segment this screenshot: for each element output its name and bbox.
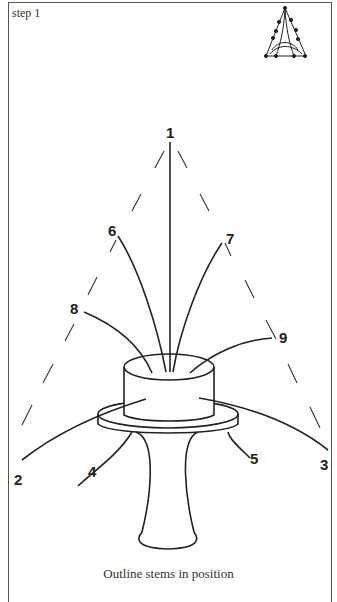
svg-text:4: 4	[88, 463, 97, 480]
svg-text:9: 9	[279, 329, 287, 346]
vase	[98, 354, 238, 549]
triangle-outline-icon	[264, 6, 306, 57]
stems	[22, 142, 328, 486]
svg-text:3: 3	[320, 456, 328, 473]
svg-text:2: 2	[14, 471, 22, 488]
figure-caption: Outline stems in position	[0, 566, 337, 582]
svg-text:8: 8	[70, 300, 78, 317]
svg-text:6: 6	[108, 222, 116, 239]
svg-text:1: 1	[166, 124, 174, 141]
svg-text:7: 7	[226, 230, 234, 247]
svg-text:5: 5	[250, 450, 258, 467]
